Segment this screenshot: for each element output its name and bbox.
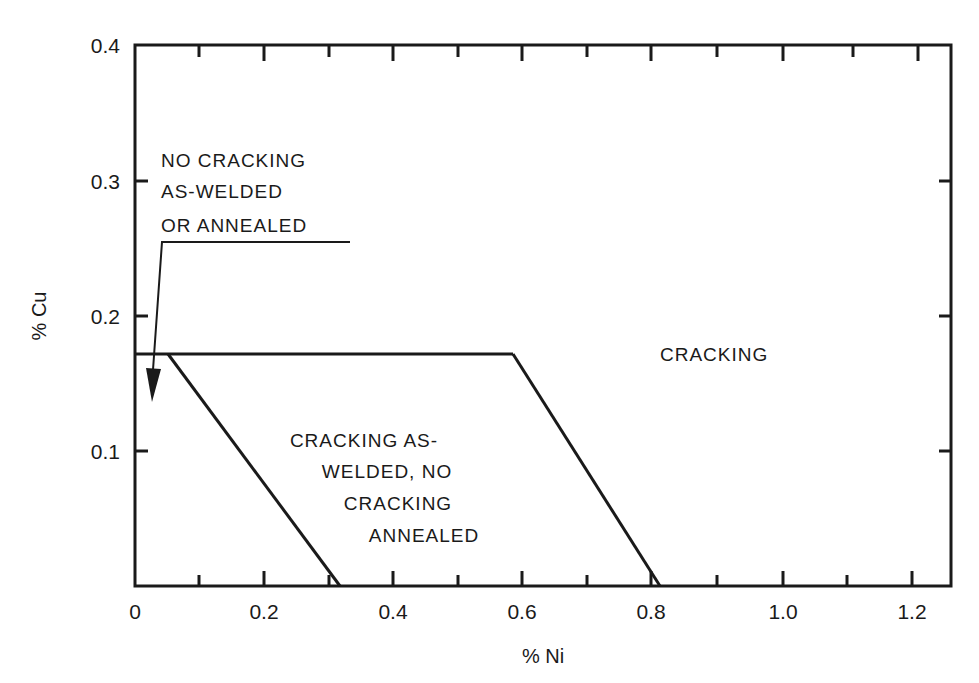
x-tick-labels: 0 0.2 0.4 0.6 0.8 1.0 1.2 xyxy=(129,600,926,623)
y-axis-ticks xyxy=(135,181,148,451)
arrow-head-icon xyxy=(146,368,161,402)
x-tick-label: 0.2 xyxy=(249,600,278,623)
region-label-line: ANNEALED xyxy=(369,525,479,546)
x-tick-label: 0.6 xyxy=(507,600,536,623)
region-label-line: WELDED, NO xyxy=(322,461,452,482)
cracking-boundary-line xyxy=(513,354,660,586)
x-tick-label: 1.0 xyxy=(768,600,797,623)
right-axis-ticks xyxy=(939,181,951,451)
y-tick-label: 0.1 xyxy=(91,440,120,463)
y-tick-label: 0.4 xyxy=(91,34,121,57)
y-tick-label: 0.2 xyxy=(91,305,120,328)
x-axis-title: % Ni xyxy=(522,645,564,667)
top-axis-ticks xyxy=(199,45,918,61)
x-tick-label: 1.2 xyxy=(897,600,926,623)
x-tick-label: 0.4 xyxy=(378,600,408,623)
region-label-line: CRACKING xyxy=(660,344,768,365)
plot-frame xyxy=(135,45,951,586)
region-label-cracking: CRACKING xyxy=(660,344,768,365)
region-label-line: CRACKING AS- xyxy=(290,430,438,451)
no-cracking-boundary-line xyxy=(168,354,340,586)
region-label-no-cracking: NO CRACKING AS-WELDED OR ANNEALED xyxy=(161,150,307,236)
x-tick-label: 0 xyxy=(129,600,141,623)
annotation-arrow xyxy=(146,242,350,402)
y-tick-labels: 0.1 0.2 0.3 0.4 xyxy=(91,34,121,463)
x-tick-label: 0.8 xyxy=(636,600,665,623)
region-label-line: CRACKING xyxy=(344,493,452,514)
region-label-cracking-as-welded: CRACKING AS- WELDED, NO CRACKING ANNEALE… xyxy=(290,430,479,546)
region-label-line: OR ANNEALED xyxy=(161,215,307,236)
phase-diagram-chart: 0 0.2 0.4 0.6 0.8 1.0 1.2 0.1 0.2 0.3 0.… xyxy=(0,0,979,683)
x-axis-ticks xyxy=(199,571,912,586)
y-axis-title: % Cu xyxy=(28,292,50,341)
region-label-line: AS-WELDED xyxy=(161,181,283,202)
y-tick-label: 0.3 xyxy=(91,170,120,193)
region-label-line: NO CRACKING xyxy=(161,150,306,171)
